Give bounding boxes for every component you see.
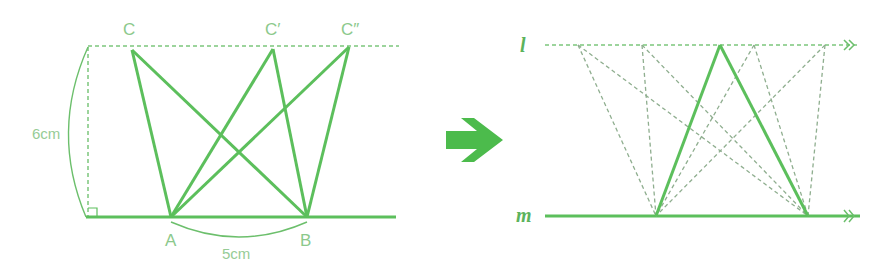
height-measure-label: 6cm (32, 125, 60, 142)
vertex-label-c-prime: C′ (265, 20, 280, 39)
vertex-label-b: B (300, 231, 311, 250)
diagram-canvas: C C′ C″ A B 6cm 5cm (0, 0, 891, 263)
vertex-label-c: C (123, 20, 135, 39)
triangle-abc-prime (171, 49, 307, 217)
right-figure: l m (516, 34, 860, 226)
right-arrow-icon (446, 118, 503, 162)
base-brace-arc (171, 222, 307, 237)
triangle-equal-area-diagram: C C′ C″ A B 6cm 5cm (0, 0, 891, 263)
left-figure: C C′ C″ A B 6cm 5cm (32, 20, 399, 262)
vertex-label-c-double-prime: C″ (341, 20, 359, 39)
height-brace-arc (68, 47, 88, 217)
highlighted-triangle (656, 45, 808, 216)
dashed-triangles (578, 45, 825, 216)
parallel-mark-l-icon (844, 40, 854, 50)
line-label-l: l (520, 34, 526, 56)
vertex-label-a: A (165, 231, 177, 250)
triangle-abc (132, 50, 307, 217)
base-measure-label: 5cm (222, 245, 250, 262)
line-label-m: m (516, 204, 532, 226)
